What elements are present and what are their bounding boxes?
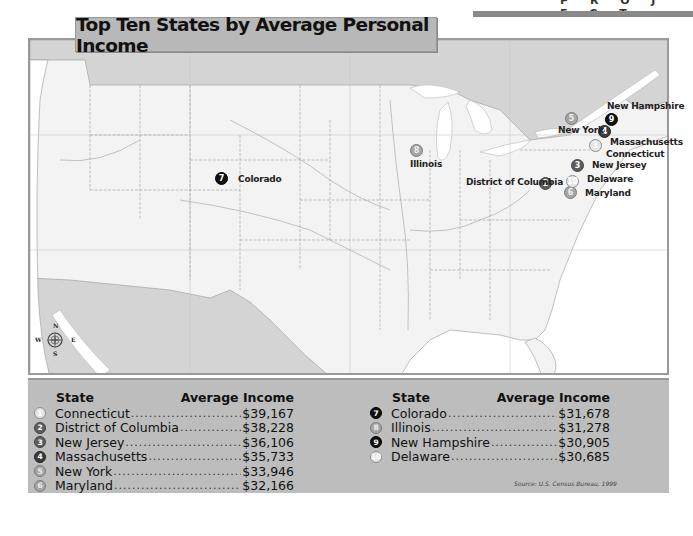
legend-row: 10Delaware$30,685 <box>370 450 610 465</box>
legend-state-name: Colorado <box>391 406 447 421</box>
rank-badge-icon: 6 <box>34 480 46 492</box>
legend-state-name: Illinois <box>391 420 431 435</box>
rank-badge-icon: 9 <box>370 436 382 448</box>
source-note: Source: U.S. Census Bureau, 1999 <box>514 480 617 487</box>
legend-income-value: $31,278 <box>558 420 610 435</box>
legend-list-left: 1Connecticut$39,1672District of Columbia… <box>34 406 294 493</box>
legend-panel: State Average Income 1Connecticut$39,167… <box>28 378 669 493</box>
legend-income-value: $33,946 <box>242 464 294 479</box>
legend-column-right: State Average Income 7Colorado$31,6788Il… <box>370 390 610 464</box>
map-label: New Hampshire <box>607 101 684 111</box>
map-marker-rank-5: 5 <box>565 112 578 125</box>
legend-state-name: District of Columbia <box>55 420 179 435</box>
legend-header-income: Average Income <box>181 390 294 406</box>
leader-dots <box>432 421 558 434</box>
map-title: Top Ten States by Average Personal Incom… <box>76 14 436 56</box>
map-label: Connecticut <box>606 149 664 159</box>
legend-row: 8Illinois$31,278 <box>370 421 610 436</box>
map-label: Colorado <box>238 174 282 184</box>
rank-badge-icon: 8 <box>370 422 382 434</box>
legend-list-right: 7Colorado$31,6788Illinois$31,2789New Ham… <box>370 406 610 464</box>
rank-badge-icon: 2 <box>34 422 46 434</box>
leader-dots <box>114 479 241 492</box>
map-marker-rank-8: 8 <box>410 144 423 157</box>
rank-badge-icon: 10 <box>370 451 382 463</box>
legend-income-value: $35,733 <box>242 449 294 464</box>
legend-row: 7Colorado$31,678 <box>370 406 610 421</box>
leader-dots <box>148 450 241 463</box>
legend-row: 4Massachusetts$35,733 <box>34 450 294 465</box>
map-title-box: Top Ten States by Average Personal Incom… <box>75 17 437 52</box>
map-label: District of Columbia <box>466 177 563 187</box>
legend-income-value: $39,167 <box>242 406 294 421</box>
compass-south: S <box>53 350 57 357</box>
leader-dots <box>448 407 557 420</box>
compass-rose: N S W E <box>40 325 70 355</box>
map-marker-rank-3: 3 <box>571 159 584 172</box>
rank-badge-icon: 4 <box>34 451 46 463</box>
map-marker-rank-1: 1 <box>589 139 602 152</box>
legend-income-value: $30,685 <box>558 449 610 464</box>
header-bar <box>473 11 693 17</box>
legend-state-name: Massachusetts <box>55 449 147 464</box>
legend-state-name: New York <box>55 464 112 479</box>
legend-header-state: State <box>392 390 430 406</box>
map-label: Delaware <box>587 174 633 184</box>
page-header-partial-text: P R O J E C T <box>560 0 693 20</box>
legend-state-name: Delaware <box>391 449 450 464</box>
legend-state-name: Maryland <box>55 478 113 493</box>
rank-badge-icon: 7 <box>370 407 382 419</box>
leader-dots <box>180 421 241 434</box>
us-map <box>28 38 669 375</box>
map-marker-rank-7: 7 <box>215 172 228 185</box>
rank-badge-icon: 3 <box>34 436 46 448</box>
map-label: Illinois <box>410 159 442 169</box>
legend-income-value: $32,166 <box>242 478 294 493</box>
legend-header-income: Average Income <box>497 390 610 406</box>
legend-state-name: Connecticut <box>55 406 130 421</box>
map-graphic <box>30 40 669 375</box>
legend-column-left: State Average Income 1Connecticut$39,167… <box>34 390 294 493</box>
leader-dots <box>113 465 241 478</box>
map-label: Maryland <box>585 188 631 198</box>
legend-income-value: $31,678 <box>558 406 610 421</box>
leader-dots <box>131 407 241 420</box>
map-marker-rank-9: 9 <box>605 113 618 126</box>
map-marker-rank-6: 6 <box>564 186 577 199</box>
legend-row: 1Connecticut$39,167 <box>34 406 294 421</box>
leader-dots <box>491 436 557 449</box>
map-label: New Jersey <box>592 160 646 170</box>
legend-header: State Average Income <box>370 390 610 406</box>
legend-state-name: New Hampshire <box>391 435 490 450</box>
leader-dots <box>125 436 241 449</box>
map-label: Massachusetts <box>610 137 683 147</box>
rank-badge-icon: 1 <box>34 407 46 419</box>
legend-income-value: $36,106 <box>242 435 294 450</box>
legend-row: 9New Hampshire$30,905 <box>370 435 610 450</box>
legend-state-name: New Jersey <box>55 435 124 450</box>
compass-west: W <box>35 336 42 343</box>
legend-row: 5New York$33,946 <box>34 464 294 479</box>
compass-east: E <box>71 336 76 343</box>
compass-north: N <box>53 322 58 329</box>
leader-dots <box>451 450 557 463</box>
legend-income-value: $30,905 <box>558 435 610 450</box>
legend-header-state: State <box>56 390 94 406</box>
legend-row: 3New Jersey$36,106 <box>34 435 294 450</box>
rank-badge-icon: 5 <box>34 465 46 477</box>
map-label: New York <box>558 125 604 135</box>
legend-header: State Average Income <box>34 390 294 406</box>
legend-income-value: $38,228 <box>242 420 294 435</box>
map-marker-rank-10: 10 <box>566 175 579 188</box>
legend-row: 2District of Columbia$38,228 <box>34 421 294 436</box>
legend-row: 6Maryland$32,166 <box>34 479 294 494</box>
